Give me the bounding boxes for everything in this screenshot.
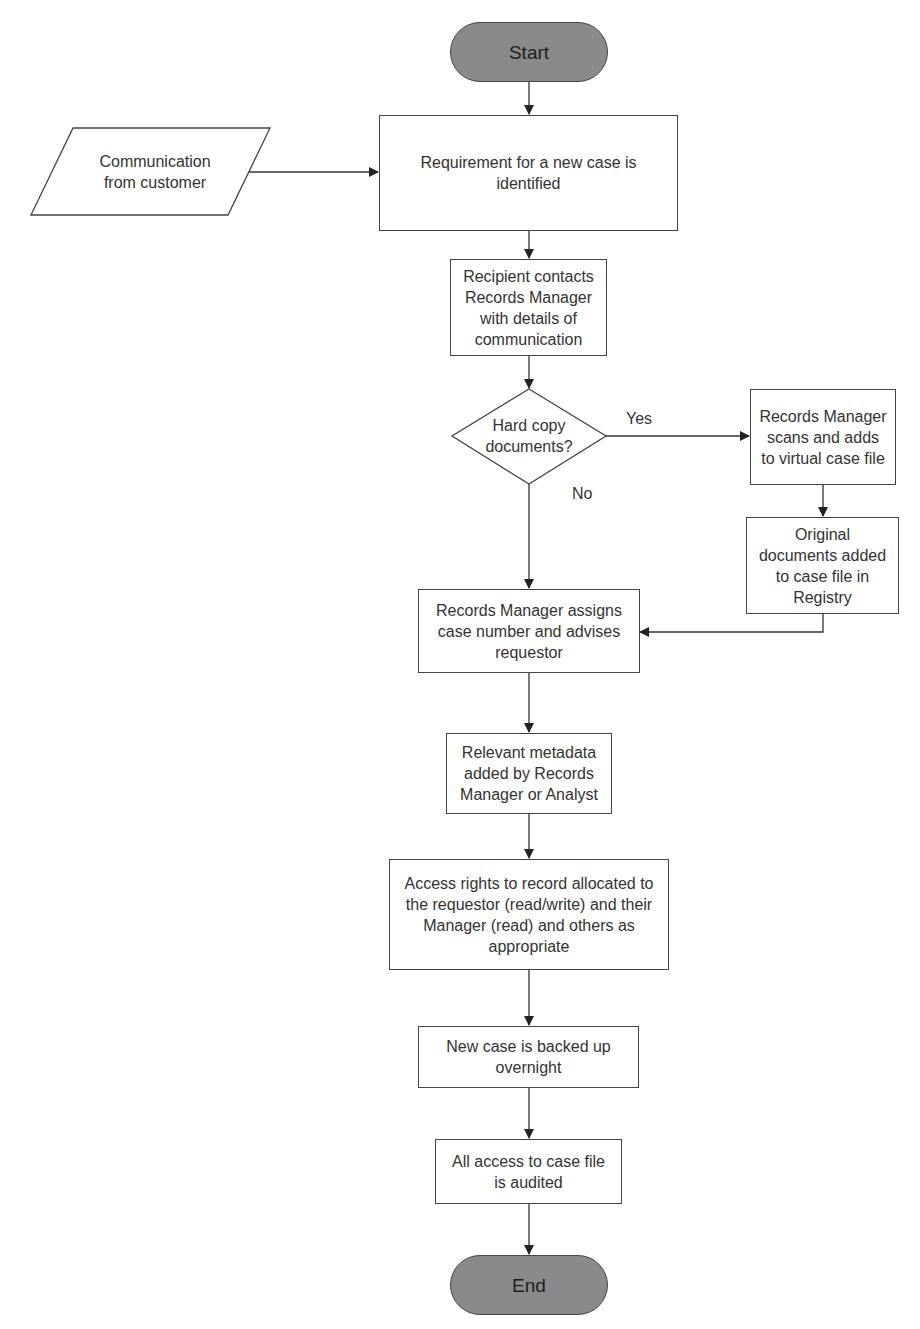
process-requirement-identified: Requirement for a new case is identified — [379, 115, 678, 231]
start-terminal: Start — [450, 22, 608, 82]
decision-hard-copy: Hard copy documents? — [462, 408, 596, 464]
process-assign-case-number: Records Manager assigns case number and … — [418, 589, 640, 673]
access-label: Access rights to record allocated to the… — [404, 873, 653, 957]
requirement-label: Requirement for a new case is identified — [420, 152, 636, 194]
scan-label: Records Manager scans and adds to virtua… — [759, 406, 886, 469]
metadata-label: Relevant metadata added by Records Manag… — [460, 742, 598, 805]
input-label: Communication from customer — [99, 151, 210, 193]
assign-label: Records Manager assigns case number and … — [436, 600, 622, 663]
process-access-audited: All access to case file is audited — [435, 1139, 622, 1204]
edge-label-no: No — [572, 485, 592, 503]
process-access-rights: Access rights to record allocated to the… — [389, 859, 669, 970]
input-communication-from-customer: Communication from customer — [55, 128, 255, 215]
decision-label: Hard copy documents? — [485, 415, 572, 457]
process-recipient-contacts: Recipient contacts Records Manager with … — [450, 259, 607, 356]
audit-label: All access to case file is audited — [452, 1151, 605, 1193]
process-metadata-added: Relevant metadata added by Records Manag… — [446, 733, 612, 814]
process-original-documents: Original documents added to case file in… — [746, 517, 899, 614]
end-terminal: End — [450, 1255, 608, 1315]
end-label: End — [512, 1275, 546, 1296]
start-label: Start — [509, 42, 549, 63]
backup-label: New case is backed up overnight — [446, 1036, 611, 1078]
edge-label-yes: Yes — [626, 410, 652, 428]
process-backup-overnight: New case is backed up overnight — [418, 1026, 639, 1088]
original-label: Original documents added to case file in… — [759, 524, 886, 608]
contact-label: Recipient contacts Records Manager with … — [463, 266, 594, 350]
process-scan-to-virtual: Records Manager scans and adds to virtua… — [750, 389, 896, 485]
